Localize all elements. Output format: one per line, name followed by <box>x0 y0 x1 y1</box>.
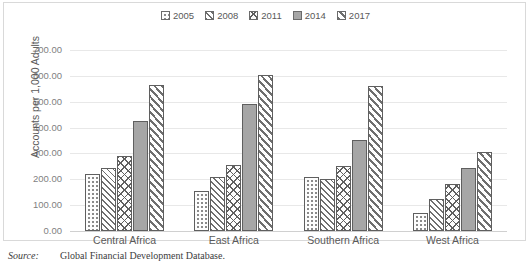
source-label: Source: <box>8 250 60 261</box>
bar-2017-central-africa[interactable] <box>149 85 164 231</box>
y-tick-label-0: 0.00 <box>44 226 63 236</box>
legend-label-2017: 2017 <box>349 11 370 21</box>
y-tick-label-100: 100.00 <box>33 200 62 210</box>
source-note: Source: Global Financial Development Dat… <box>8 250 523 261</box>
bar-2008-southern-africa[interactable] <box>320 179 335 231</box>
bar-2017-southern-africa[interactable] <box>368 86 383 231</box>
plot-area <box>70 50 507 231</box>
legend-label-2014: 2014 <box>305 11 326 21</box>
source-text: Global Financial Development Database. <box>60 250 523 261</box>
legend-swatch-2005 <box>161 11 170 20</box>
bar-2005-east-africa[interactable] <box>194 191 209 231</box>
chart-legend: 20052008201120142017 <box>4 11 527 21</box>
bar-2011-central-africa[interactable] <box>117 156 132 231</box>
legend-label-2008: 2008 <box>217 11 238 21</box>
x-label-east-africa: East Africa <box>179 235 288 246</box>
bar-group-southern-africa <box>289 50 398 231</box>
bar-2011-east-africa[interactable] <box>226 165 241 231</box>
legend-item-2017[interactable]: 2017 <box>337 11 370 21</box>
bar-2005-southern-africa[interactable] <box>304 177 319 231</box>
bar-2011-west-africa[interactable] <box>445 184 460 231</box>
chart-frame: 20052008201120142017 0.00100.00200.00300… <box>3 2 526 241</box>
bar-2005-west-africa[interactable] <box>413 213 428 231</box>
bar-group-central-africa <box>70 50 179 231</box>
bar-group-west-africa <box>398 50 507 231</box>
bar-2014-west-africa[interactable] <box>461 168 476 231</box>
bar-2005-central-africa[interactable] <box>85 174 100 231</box>
bar-2017-east-africa[interactable] <box>258 75 273 231</box>
legend-swatch-2017 <box>337 11 346 20</box>
legend-label-2005: 2005 <box>173 11 194 21</box>
bar-2008-west-africa[interactable] <box>429 199 444 231</box>
legend-label-2011: 2011 <box>261 11 281 21</box>
legend-swatch-2014 <box>293 11 302 20</box>
bar-groups <box>70 50 507 231</box>
x-axis-category-labels: Central AfricaEast AfricaSouthern Africa… <box>70 235 507 246</box>
legend-item-2005[interactable]: 2005 <box>161 11 194 21</box>
bar-group-east-africa <box>179 50 288 231</box>
x-label-central-africa: Central Africa <box>70 235 179 246</box>
legend-swatch-2011 <box>249 11 258 20</box>
bar-2008-east-africa[interactable] <box>210 177 225 231</box>
gridline-0 <box>70 231 507 232</box>
legend-swatch-2008 <box>205 11 214 20</box>
legend-item-2014[interactable]: 2014 <box>293 11 326 21</box>
bar-2014-central-africa[interactable] <box>133 121 148 231</box>
x-label-west-africa: West Africa <box>398 235 507 246</box>
bar-2014-southern-africa[interactable] <box>352 140 367 231</box>
legend-item-2011[interactable]: 2011 <box>249 11 281 21</box>
y-axis-title: Accounts per 1,000 Adults <box>29 2 41 192</box>
bar-2008-central-africa[interactable] <box>101 168 116 231</box>
x-label-southern-africa: Southern Africa <box>289 235 398 246</box>
bar-2011-southern-africa[interactable] <box>336 166 351 231</box>
bar-2017-west-africa[interactable] <box>477 152 492 231</box>
bar-2014-east-africa[interactable] <box>242 104 257 231</box>
figure: 20052008201120142017 0.00100.00200.00300… <box>0 0 531 270</box>
legend-item-2008[interactable]: 2008 <box>205 11 238 21</box>
